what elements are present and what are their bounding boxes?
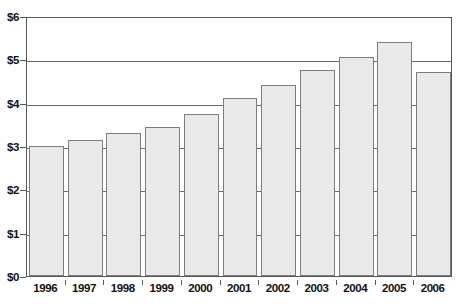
x-tick-mark [375, 280, 376, 285]
x-tick-label: 1998 [111, 282, 135, 294]
y-tick-mark [20, 234, 26, 235]
y-tick-mark [20, 190, 26, 191]
x-tick-label: 2003 [304, 282, 328, 294]
x-tick-label: 1997 [72, 282, 96, 294]
y-tick-mark [20, 17, 26, 18]
x-tick-mark [103, 280, 104, 285]
x-tick-label: 2004 [343, 282, 367, 294]
y-tick-mark [20, 60, 26, 61]
y-tick-mark [20, 104, 26, 105]
x-axis: 1996199719981999200020012002200320042005… [26, 280, 452, 304]
bar-chart: $0$1$2$3$4$5$6 1996199719981999200020012… [0, 0, 457, 304]
x-tick-mark [297, 280, 298, 285]
y-axis: $0$1$2$3$4$5$6 [0, 0, 26, 304]
bar [339, 57, 374, 276]
x-tick-mark [413, 280, 414, 285]
bar [106, 133, 141, 276]
y-tick-mark [20, 147, 26, 148]
y-tick-label: $2 [7, 184, 19, 196]
bar [377, 42, 412, 276]
x-tick-mark [220, 280, 221, 285]
y-tick-label: $0 [7, 271, 19, 283]
x-tick-mark [65, 280, 66, 285]
x-tick-label: 1999 [150, 282, 174, 294]
y-tick-label: $6 [7, 11, 19, 23]
bar [261, 85, 296, 276]
bar [223, 98, 258, 276]
y-tick-label: $3 [7, 141, 19, 153]
bar [145, 127, 180, 277]
x-tick-label: 1996 [33, 282, 57, 294]
bar [416, 72, 451, 276]
x-tick-label: 2006 [421, 282, 445, 294]
x-tick-label: 2001 [227, 282, 251, 294]
bar [68, 140, 103, 277]
y-tick-label: $5 [7, 54, 19, 66]
bar [184, 114, 219, 277]
plot-area [26, 17, 452, 277]
x-tick-label: 2000 [188, 282, 212, 294]
x-tick-mark [258, 280, 259, 285]
y-tick-mark [20, 277, 26, 278]
x-tick-mark [336, 280, 337, 285]
x-tick-label: 2002 [266, 282, 290, 294]
bar [300, 70, 335, 276]
x-tick-mark [142, 280, 143, 285]
y-tick-label: $4 [7, 98, 19, 110]
x-tick-label: 2005 [382, 282, 406, 294]
x-tick-mark [181, 280, 182, 285]
y-tick-label: $1 [7, 228, 19, 240]
bar [29, 146, 64, 276]
